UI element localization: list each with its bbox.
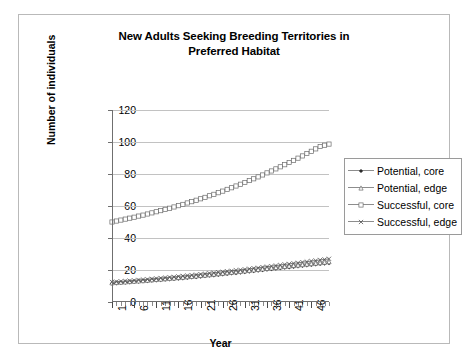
x-tick-minor xyxy=(240,302,241,306)
x-tick-minor xyxy=(307,302,308,306)
chart-figure: New Adults Seeking Breeding Territories … xyxy=(18,14,450,344)
x-tick-major xyxy=(156,302,157,308)
chart-title: New Adults Seeking Breeding Territories … xyxy=(59,29,409,59)
x-tick-minor xyxy=(329,302,330,306)
legend-marker-icon xyxy=(348,181,374,195)
x-tick-major xyxy=(178,302,179,308)
y-axis-label: Number of individuals xyxy=(45,35,57,145)
x-tick-minor xyxy=(152,302,153,306)
x-axis-label: Year xyxy=(112,337,329,349)
x-tick-minor xyxy=(285,302,286,306)
x-tick-major xyxy=(267,302,268,308)
x-tick-minor xyxy=(130,302,131,306)
x-tick-minor xyxy=(218,302,219,306)
x-tick-major xyxy=(289,302,290,308)
legend-item: Potential, core xyxy=(348,162,457,179)
x-tick-major xyxy=(311,302,312,308)
x-tick-major xyxy=(134,302,135,308)
x-tick-major xyxy=(112,302,113,308)
x-tick-minor xyxy=(174,302,175,306)
legend-item: Successful, core xyxy=(348,196,457,213)
x-tick-minor xyxy=(196,302,197,306)
legend-label: Potential, core xyxy=(374,165,444,177)
chart-title-line-2: Preferred Habitat xyxy=(59,44,409,59)
chart-legend: Potential, corePotential, edgeSuccessful… xyxy=(344,158,462,235)
data-series xyxy=(110,142,331,224)
x-tick-major xyxy=(245,302,246,308)
legend-label: Successful, core xyxy=(374,199,454,211)
x-tick-minor xyxy=(263,302,264,306)
legend-marker-icon xyxy=(348,215,374,229)
legend-marker-icon xyxy=(348,198,374,212)
legend-label: Successful, edge xyxy=(374,216,457,228)
x-tick-label: 1 xyxy=(116,305,128,311)
legend-item: Successful, edge xyxy=(348,213,457,230)
data-series-layer xyxy=(112,110,329,302)
x-tick-major xyxy=(223,302,224,308)
legend-label: Potential, edge xyxy=(374,182,447,194)
legend-item: Potential, edge xyxy=(348,179,457,196)
x-tick-label: 6 xyxy=(138,305,150,311)
x-tick-major xyxy=(201,302,202,308)
plot-area xyxy=(112,110,329,302)
chart-title-line-1: New Adults Seeking Breeding Territories … xyxy=(59,29,409,44)
data-series xyxy=(110,257,331,284)
legend-marker-icon xyxy=(348,164,374,178)
